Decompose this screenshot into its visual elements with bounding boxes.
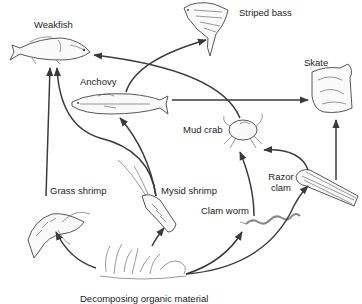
label-razor-clam: Razor clam	[267, 171, 295, 193]
mud-crab-icon	[224, 114, 263, 148]
label-weakfish: Weakfish	[34, 19, 73, 30]
label-grass-shrimp: Grass shrimp	[50, 185, 106, 196]
grass-shrimp-icon	[28, 212, 90, 258]
striped-bass-icon	[184, 3, 228, 56]
label-razor-clam-line2: clam	[271, 182, 291, 193]
label-anchovy: Anchovy	[80, 76, 116, 87]
detritus-icon	[100, 244, 186, 279]
label-clam-worm: Clam worm	[201, 205, 249, 216]
label-mud-crab: Mud crab	[183, 124, 223, 135]
anchovy-icon	[72, 94, 168, 114]
label-detritus: Decomposing organic material	[80, 293, 208, 304]
label-skate: Skate	[304, 57, 328, 68]
label-razor-clam-line1: Razor	[268, 171, 293, 182]
mysid-shrimp-icon	[118, 160, 176, 232]
weakfish-icon	[10, 37, 90, 64]
label-mysid-shrimp: Mysid shrimp	[161, 185, 217, 196]
skate-icon	[312, 64, 352, 113]
label-striped-bass: Striped bass	[239, 7, 292, 18]
